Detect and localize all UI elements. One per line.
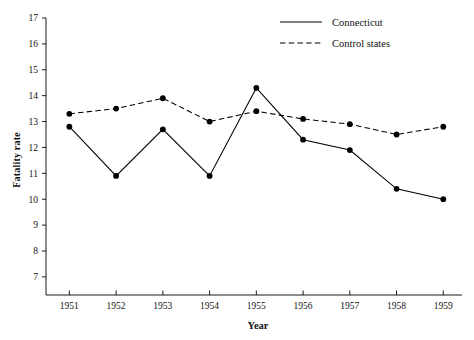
x-tick-label: 1954 [200,301,219,311]
data-point-marker [300,116,306,122]
y-tick-label: 10 [29,195,39,205]
legend-label: Connecticut [332,17,383,28]
x-tick-label: 1956 [294,301,313,311]
series-layer [66,85,446,202]
chart-legend: ConnecticutControl states [280,17,390,49]
y-tick-label: 13 [29,117,39,127]
series-line [69,98,443,134]
data-point-marker [207,119,213,125]
y-axis-title: Fatality rate [11,132,22,188]
data-point-marker [207,173,213,179]
x-tick-label: 1951 [60,301,79,311]
data-point-marker [66,111,72,117]
y-tick-label: 9 [33,220,38,230]
data-point-marker [300,137,306,143]
line-chart: 7891011121314151617 19511952195319541955… [0,0,474,340]
data-point-marker [347,147,353,153]
y-tick-label: 8 [33,246,38,256]
data-point-marker [253,108,259,114]
data-point-marker [347,121,353,127]
data-point-marker [113,173,119,179]
data-point-marker [440,124,446,130]
chart-canvas: 7891011121314151617 19511952195319541955… [0,0,474,340]
data-point-marker [160,126,166,132]
y-tick-label: 16 [29,39,39,49]
data-point-marker [160,95,166,101]
x-tick-label: 1958 [387,301,406,311]
y-tick-label: 17 [29,13,39,23]
x-tick-label: 1955 [247,301,266,311]
y-tick-label: 14 [29,91,39,101]
y-axis-ticks: 7891011121314151617 [29,13,47,282]
data-point-marker [394,186,400,192]
series-line [69,88,443,199]
legend-label: Control states [332,38,390,49]
x-axis-ticks: 195119521953195419551956195719581959 [60,291,453,312]
x-tick-label: 1959 [434,301,453,311]
x-tick-label: 1957 [340,301,359,311]
data-point-marker [113,106,119,112]
data-point-marker [253,85,259,91]
series-control-states [66,95,446,137]
y-tick-label: 11 [29,169,38,179]
data-point-marker [66,124,72,130]
y-tick-label: 7 [33,272,38,282]
y-tick-label: 12 [29,143,39,153]
y-tick-label: 15 [29,65,39,75]
data-point-marker [394,132,400,138]
x-tick-label: 1953 [153,301,172,311]
x-axis-title: Year [248,320,269,331]
x-tick-label: 1952 [107,301,126,311]
series-connecticut [66,85,446,202]
data-point-marker [440,196,446,202]
